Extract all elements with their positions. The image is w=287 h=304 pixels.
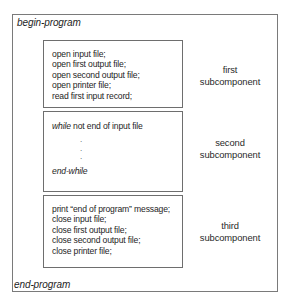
caption-line: second	[190, 137, 270, 149]
caption-line: subcomponent	[190, 149, 270, 161]
second-subcomponent-box: while not end of input file . . . end-wh…	[43, 111, 183, 192]
caption-line: subcomponent	[190, 232, 270, 244]
begin-program-label: begin-program	[17, 17, 81, 28]
code-line: open input file;	[52, 49, 182, 59]
ellipsis-dot: .	[80, 153, 182, 162]
code-line: print “end of program” message;	[52, 204, 182, 214]
code-line: close input file;	[52, 214, 182, 224]
ellipsis-dot: .	[80, 136, 182, 145]
while-keyword: while	[52, 121, 71, 131]
while-line: while not end of input file	[52, 121, 182, 131]
caption-line: first	[190, 64, 270, 76]
while-condition: not end of input file	[71, 121, 143, 131]
code-line: read first input record;	[52, 91, 182, 101]
ellipsis-dot: .	[80, 145, 182, 154]
ellipsis-dots: . . .	[80, 136, 182, 162]
code-line: open printer file;	[52, 80, 182, 90]
second-subcomponent-caption: second subcomponent	[190, 137, 270, 160]
first-subcomponent-caption: first subcomponent	[190, 64, 270, 87]
code-line: close first output file;	[52, 225, 182, 235]
third-subcomponent-caption: third subcomponent	[190, 220, 270, 243]
code-line: close printer file;	[52, 246, 182, 256]
caption-line: third	[190, 220, 270, 232]
end-while-keyword: end-while	[52, 166, 182, 176]
code-line: open first output file;	[52, 59, 182, 69]
code-line: open second output file;	[52, 70, 182, 80]
third-subcomponent-box: print “end of program” message; close in…	[43, 195, 183, 268]
caption-line: subcomponent	[190, 76, 270, 88]
first-subcomponent-box: open input file; open first output file;…	[43, 40, 183, 108]
end-program-label: end-program	[14, 279, 70, 290]
code-line: close second output file;	[52, 235, 182, 245]
